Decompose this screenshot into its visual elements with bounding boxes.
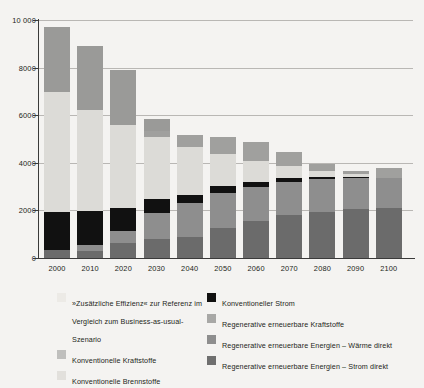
bar-segment <box>243 142 269 161</box>
bar-segment <box>276 166 302 178</box>
legend-label: »Zusätzliche Effizienz« zur Referenz im … <box>72 299 202 344</box>
bar-segment <box>243 161 269 182</box>
bar-segment <box>144 239 170 258</box>
bar-segment <box>144 199 170 213</box>
bar-segment <box>210 154 236 186</box>
bar-segment <box>44 92 70 212</box>
legend-item: Konventionelle Kraftstoffe <box>57 349 207 367</box>
bar-segment <box>77 211 103 245</box>
bar-segment <box>276 152 302 166</box>
y-axis-tick-label: 10 000 <box>2 16 36 25</box>
legend-item: Regenerative erneuerbare Energien – Stro… <box>207 355 422 373</box>
bar-segment <box>376 178 402 208</box>
legend-label: Regenerative erneuerbare Energien – Wärm… <box>222 341 392 350</box>
plot-area <box>38 20 413 258</box>
y-axis-tick <box>33 20 39 21</box>
bar-segment <box>44 212 70 250</box>
legend-item: Regenerative erneuerbare Kraftstoffe <box>207 313 422 331</box>
bar-segment <box>210 186 236 192</box>
y-axis-tick <box>33 210 39 211</box>
legend-item: »Zusätzliche Effizienz« zur Referenz im … <box>57 292 207 346</box>
bar-segment <box>343 209 369 258</box>
y-axis-tick-label: 4000 <box>2 158 36 167</box>
bar-segment <box>343 177 369 178</box>
bar-segment <box>77 251 103 258</box>
bar-segment <box>276 178 302 182</box>
bar-segment <box>144 213 170 239</box>
bar-segment <box>177 203 203 236</box>
legend-column-left: »Zusätzliche Effizienz« zur Referenz im … <box>57 292 207 388</box>
legend-column-right: Konventioneller StromRegenerative erneue… <box>207 292 422 376</box>
y-axis-tick-label: 6000 <box>2 111 36 120</box>
bar-segment <box>110 208 136 231</box>
bar-segment <box>309 212 335 258</box>
chart-legend: »Zusätzliche Effizienz« zur Referenz im … <box>0 292 424 367</box>
bar-segment <box>276 215 302 258</box>
bar-segment <box>243 182 269 187</box>
x-axis-line <box>38 258 415 259</box>
legend-swatch-icon <box>207 314 216 323</box>
legend-item: Konventioneller Strom <box>207 292 422 310</box>
bar-segment <box>177 237 203 258</box>
bar-segment <box>77 245 103 251</box>
y-axis-labels: 0200040006000800010 000 <box>0 0 36 270</box>
legend-label: Regenerative erneuerbare Kraftstoffe <box>222 320 344 329</box>
x-axis-tick-label: 2100 <box>369 264 409 273</box>
legend-label: Konventionelle Brennstoffe <box>72 377 160 386</box>
bar-segment <box>309 164 335 171</box>
legend-label: Konventionelle Kraftstoffe <box>72 356 156 365</box>
bar-segment <box>376 208 402 258</box>
bar-segment <box>110 125 136 207</box>
y-axis-tick <box>33 115 39 116</box>
legend-item: Konventionelle Brennstoffe <box>57 370 207 388</box>
y-axis-tick-label: 2000 <box>2 206 36 215</box>
y-axis-tick <box>33 258 39 259</box>
bar-segment <box>243 187 269 222</box>
bar-segment <box>343 171 369 174</box>
y-axis-tick-label: 8000 <box>2 63 36 72</box>
bar-segment <box>44 27 70 92</box>
bar-segment <box>309 171 335 176</box>
legend-swatch-icon <box>207 335 216 344</box>
bar-segment <box>343 178 369 209</box>
legend-label: Konventioneller Strom <box>222 299 295 308</box>
bar-segment <box>77 110 103 210</box>
bar-segment <box>343 174 369 177</box>
legend-swatch-icon <box>57 371 66 380</box>
bar-segment <box>210 137 236 154</box>
bar-segment <box>177 147 203 194</box>
bar-segment <box>276 182 302 215</box>
legend-swatch-icon <box>207 356 216 365</box>
legend-swatch-icon <box>57 293 66 302</box>
bar-segment <box>177 195 203 204</box>
bar-segment <box>110 70 136 125</box>
bar-segment <box>110 243 136 258</box>
bar-group <box>38 20 413 258</box>
bar-segment <box>177 135 203 147</box>
bar-segment <box>210 228 236 258</box>
bar-segment <box>309 179 335 211</box>
legend-label: Regenerative erneuerbare Energien – Stro… <box>222 362 388 371</box>
y-axis-tick <box>33 68 39 69</box>
y-axis-tick-label: 0 <box>2 254 36 263</box>
bar-segment <box>243 221 269 258</box>
bar-segment <box>210 193 236 229</box>
legend-item: Regenerative erneuerbare Energien – Wärm… <box>207 334 422 352</box>
y-axis-tick <box>33 163 39 164</box>
bar-segment <box>309 177 335 180</box>
bar-segment <box>77 46 103 110</box>
legend-swatch-icon <box>207 293 216 302</box>
legend-swatch-icon <box>57 350 66 359</box>
bar-segment <box>376 168 402 178</box>
bar-segment <box>144 137 170 199</box>
bar-segment <box>144 119 170 131</box>
bar-segment <box>44 250 70 258</box>
bar-segment <box>110 231 136 243</box>
bar-segment <box>144 131 170 137</box>
